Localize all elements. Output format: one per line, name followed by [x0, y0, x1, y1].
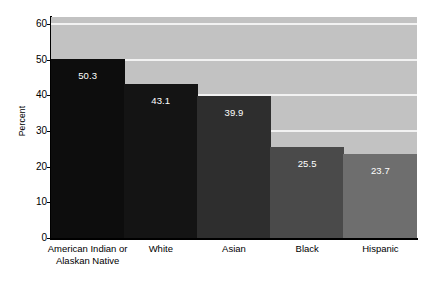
bar[interactable]: 23.7: [343, 154, 417, 238]
y-tick-mark: [47, 60, 51, 61]
y-tick-mark: [47, 95, 51, 96]
bar-value-label: 23.7: [343, 165, 417, 176]
y-tick-label: 0: [21, 233, 47, 243]
y-axis-ticks: 0102030405060: [14, 0, 47, 284]
bar-value-label: 43.1: [124, 95, 198, 106]
y-tick-mark: [47, 24, 51, 25]
bar-value-label: 50.3: [51, 70, 125, 81]
x-label-line: Hispanic: [338, 243, 423, 255]
x-label-line: Alaskan Native: [45, 255, 130, 267]
bar[interactable]: 43.1: [124, 84, 198, 238]
y-tick-label: 10: [21, 197, 47, 207]
y-tick-label: 30: [21, 126, 47, 136]
bar[interactable]: 25.5: [270, 147, 344, 238]
plot-area: 50.343.139.925.523.7: [51, 17, 417, 238]
bar-value-label: 39.9: [197, 107, 271, 118]
bar-value-label: 25.5: [270, 158, 344, 169]
y-tick-mark: [47, 202, 51, 203]
y-tick-label: 60: [21, 19, 47, 29]
x-axis-labels: American Indian orAlaskan NativeWhiteAsi…: [51, 243, 417, 283]
bar[interactable]: 50.3: [51, 59, 125, 238]
y-tick-mark: [47, 167, 51, 168]
y-tick-label: 50: [21, 55, 47, 65]
x-axis-line: [50, 238, 418, 240]
y-tick-mark: [47, 131, 51, 132]
bar-chart: Percent 0102030405060 50.343.139.925.523…: [0, 0, 432, 284]
gridline: [51, 23, 417, 25]
y-tick-label: 20: [21, 162, 47, 172]
x-tick-label: Hispanic: [338, 243, 423, 255]
y-tick-mark: [47, 238, 51, 239]
y-tick-label: 40: [21, 90, 47, 100]
bar[interactable]: 39.9: [197, 96, 271, 238]
